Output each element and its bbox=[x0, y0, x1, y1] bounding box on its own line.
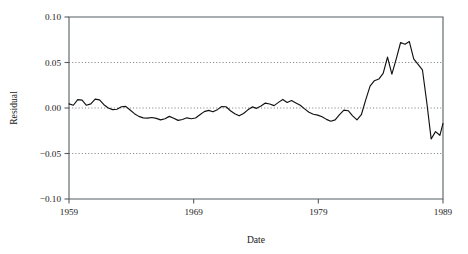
y-axis-title: Residual bbox=[8, 91, 19, 125]
x-tick-label: 1989 bbox=[434, 207, 453, 217]
y-tick-label: −0.10 bbox=[40, 194, 62, 204]
series-line-residual bbox=[69, 42, 443, 139]
x-tick-label: 1959 bbox=[60, 207, 79, 217]
x-tick-label: 1969 bbox=[184, 207, 203, 217]
y-tick-label: 0.00 bbox=[45, 103, 61, 113]
y-tick-label: −0.05 bbox=[40, 149, 62, 159]
y-tick-label: 0.10 bbox=[45, 12, 61, 22]
x-axis-title: Date bbox=[247, 234, 265, 245]
x-axis-ticks: 1959196919791989 bbox=[60, 17, 453, 217]
x-tick-label: 1979 bbox=[309, 207, 328, 217]
y-axis-ticks: 0.100.050.00−0.05−0.10 bbox=[40, 12, 69, 204]
data-series bbox=[69, 42, 443, 139]
chart-canvas: 0.100.050.00−0.05−0.10 1959196919791989 … bbox=[0, 0, 468, 254]
y-tick-label: 0.05 bbox=[45, 58, 61, 68]
residual-time-series-chart: 0.100.050.00−0.05−0.10 1959196919791989 … bbox=[0, 0, 468, 254]
